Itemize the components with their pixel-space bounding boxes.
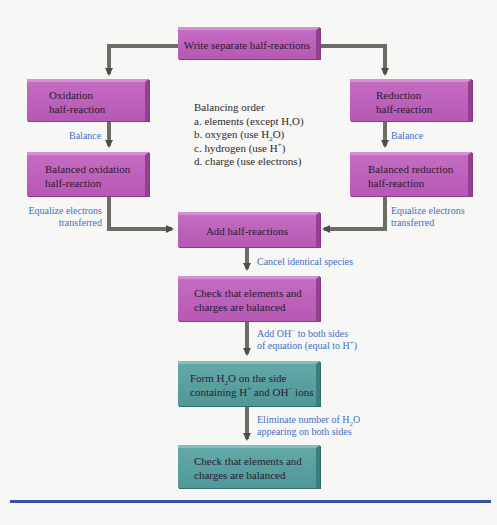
box-add-half-reactions: Add half-reactions bbox=[178, 212, 320, 247]
label-line: Add OH− to both sides bbox=[257, 328, 357, 340]
arrow-balanced-reduction-to-add bbox=[324, 196, 385, 229]
label-eliminate-water: Eliminate number of H2O appearing on bot… bbox=[257, 414, 360, 438]
box-text-line-2: containing H+ and OH− ions bbox=[190, 385, 313, 399]
box-text: Check that elements and bbox=[194, 286, 302, 300]
box-balanced-reduction: Balanced reduction half-reaction bbox=[350, 152, 472, 196]
arrow-write-to-oxidation bbox=[109, 46, 178, 74]
label-equalize-right: Equalize electrons transferred bbox=[391, 205, 465, 229]
box-check-balanced-1: Check that elements and charges are bala… bbox=[178, 276, 320, 321]
box-text: Add half-reactions bbox=[206, 224, 288, 238]
label-cancel-identical-species: Cancel identical species bbox=[257, 256, 353, 268]
label-line: Eliminate number of H2O bbox=[257, 414, 360, 426]
label-balance-right: Balance bbox=[391, 130, 423, 142]
box-text: Oxidation bbox=[49, 88, 93, 102]
box-form-water: Form H2O on the side containing H+ and O… bbox=[178, 361, 320, 406]
box-text: half-reaction bbox=[45, 176, 101, 190]
label-line: Equalize electrons bbox=[391, 205, 465, 217]
balancing-order-step-b: b. oxygen (use H2O) bbox=[194, 128, 304, 142]
label-balance-left: Balance bbox=[69, 130, 101, 142]
label-line: of equation (equal to H+) bbox=[257, 340, 357, 352]
label-equalize-left: Equalize electrons transferred bbox=[27, 205, 102, 229]
arrow-balanced-oxidation-to-add bbox=[109, 196, 172, 229]
box-text: half-reaction bbox=[376, 102, 432, 116]
box-text: Check that elements and bbox=[194, 454, 302, 468]
box-text: half-reaction bbox=[368, 176, 424, 190]
box-text: Write separate half-reactions bbox=[184, 38, 311, 52]
balancing-order-step-c: c. hydrogen (use H+) bbox=[194, 142, 304, 156]
arrow-write-to-reduction bbox=[318, 46, 385, 74]
box-text-line-1: Form H2O on the side bbox=[190, 371, 286, 385]
label-line: Equalize electrons bbox=[27, 205, 102, 217]
label-line: appearing on both sides bbox=[257, 426, 360, 438]
balancing-order-step-a: a. elements (except H,O) bbox=[194, 115, 304, 129]
box-text: charges are balanced bbox=[194, 468, 285, 482]
box-balanced-oxidation: Balanced oxidation half-reaction bbox=[27, 152, 149, 196]
box-check-balanced-2: Check that elements and charges are bala… bbox=[178, 445, 320, 488]
label-add-hydroxide: Add OH− to both sides of equation (equal… bbox=[257, 328, 357, 352]
bottom-divider-rule bbox=[10, 500, 491, 503]
box-text: charges are balanced bbox=[194, 300, 285, 314]
label-line: transferred bbox=[391, 217, 465, 229]
box-text: Balanced oxidation bbox=[45, 162, 130, 176]
label-line: transferred bbox=[27, 217, 102, 229]
box-oxidation-half-reaction: Oxidation half-reaction bbox=[27, 79, 149, 121]
balancing-order-heading: Balancing order bbox=[194, 101, 304, 115]
box-reduction-half-reaction: Reduction half-reaction bbox=[350, 79, 472, 121]
box-text: half-reaction bbox=[49, 102, 105, 116]
balancing-order-note: Balancing order a. elements (except H,O)… bbox=[194, 101, 304, 169]
box-text: Balanced reduction bbox=[368, 162, 453, 176]
balancing-order-step-d: d. charge (use electrons) bbox=[194, 155, 304, 169]
box-write-half-reactions: Write separate half-reactions bbox=[178, 27, 320, 59]
box-text: Reduction bbox=[376, 88, 421, 102]
